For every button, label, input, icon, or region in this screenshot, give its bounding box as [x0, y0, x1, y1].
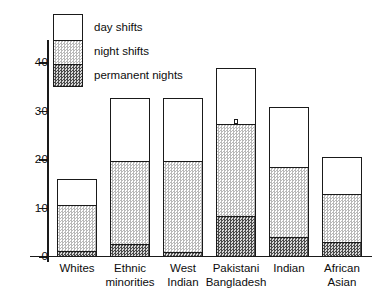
segment-night-shifts-african-asian — [323, 194, 361, 243]
legend-swatch-stack — [53, 14, 83, 87]
y-tick-label-0: 0 — [22, 250, 48, 262]
legend-swatch-day-shifts — [54, 15, 82, 40]
segment-night-shifts-pakistani-bangladesh — [217, 124, 255, 216]
x-label-african-asian-line-1: Asian — [303, 276, 372, 290]
x-label-pakistani-bangladesh-line-1: Bangladesh — [197, 276, 275, 290]
segment-day-shifts-west-indian — [164, 99, 202, 161]
legend-swatch-permanent-nights — [54, 64, 82, 86]
segment-night-shifts-ethnic-minorities — [111, 161, 149, 243]
segment-night-shifts-west-indian — [164, 161, 202, 252]
segment-permanent-nights-whites — [58, 251, 96, 256]
segment-day-shifts-african-asian — [323, 158, 361, 194]
legend-label-permanent-nights: permanent nights — [94, 69, 183, 81]
stacked-bar-chart: 0 10 20 30 40 day shifts night shifts pe… — [0, 0, 372, 302]
segment-permanent-nights-ethnic-minorities — [111, 244, 149, 256]
segment-day-shifts-pakistani-bangladesh — [217, 69, 255, 124]
bar-west-indian — [163, 98, 203, 256]
bar-ethnic-minorities — [110, 98, 150, 256]
segment-permanent-nights-west-indian — [164, 252, 202, 256]
x-label-african-asian: African Asian — [303, 262, 372, 289]
y-tick-label-20: 20 — [22, 153, 48, 165]
segment-permanent-nights-african-asian — [323, 242, 361, 256]
legend-label-day-shifts: day shifts — [94, 21, 143, 33]
y-tick-label-40: 40 — [22, 56, 48, 68]
legend-label-night-shifts: night shifts — [94, 45, 149, 57]
bar-value-notch-pakistani-bangladesh — [234, 119, 238, 124]
bar-pakistani-bangladesh — [216, 68, 256, 256]
segment-permanent-nights-pakistani-bangladesh — [217, 216, 255, 256]
y-axis-line — [47, 40, 49, 262]
bar-african-asian — [322, 157, 362, 256]
segment-day-shifts-whites — [58, 180, 96, 204]
y-tick-label-10: 10 — [22, 202, 48, 214]
legend-swatch-night-shifts — [54, 40, 82, 64]
segment-day-shifts-ethnic-minorities — [111, 99, 149, 161]
segment-permanent-nights-indian — [270, 237, 308, 256]
segment-night-shifts-indian — [270, 167, 308, 237]
x-label-african-asian-line-0: African — [303, 262, 372, 276]
bar-indian — [269, 107, 309, 256]
segment-night-shifts-whites — [58, 205, 96, 252]
y-tick-label-30: 30 — [22, 105, 48, 117]
bar-whites — [57, 179, 97, 256]
segment-day-shifts-indian — [270, 108, 308, 167]
